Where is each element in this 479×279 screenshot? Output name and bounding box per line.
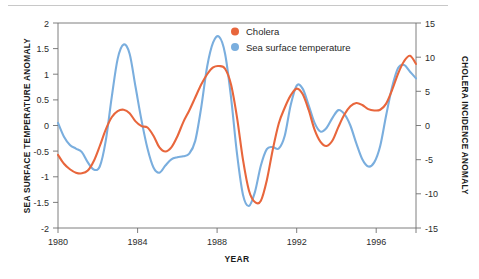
left-tick-label-neg1p5: -1.5 — [33, 198, 49, 208]
legend-dot-cholera — [231, 28, 239, 36]
left-tick-label-2: 2 — [44, 19, 49, 29]
right-tick-label-15: 15 — [425, 19, 435, 29]
right-axis-title: CHOLERA INCIDENCE ANOMALY — [460, 56, 469, 195]
chart-figure: 2 1.5 1 0.5 0 -0.5 -1 -1.5 -2 15 10 5 0 … — [0, 0, 479, 279]
left-tick-label-0p5: 0.5 — [36, 95, 49, 105]
right-tick-label-5: 5 — [425, 87, 430, 97]
left-tick-label-1p5: 1.5 — [36, 44, 49, 54]
right-tick-label-0: 0 — [425, 121, 430, 131]
legend-dot-sea-surface-temperature — [231, 43, 239, 51]
right-axis-ticks — [416, 23, 421, 228]
x-tick-label-1996: 1996 — [366, 237, 386, 247]
legend-label-cholera: Cholera — [246, 26, 280, 37]
left-axis-title: SEA SURFACE TEMPERATURE ANOMALY — [23, 38, 32, 214]
right-tick-label-10: 10 — [425, 53, 435, 63]
left-tick-label-neg2: -2 — [41, 224, 49, 234]
legend-label-sea-surface-temperature: Sea surface temperature — [246, 42, 351, 53]
right-tick-label-neg10: -10 — [425, 189, 438, 199]
left-tick-label-1: 1 — [44, 70, 49, 80]
left-tick-label-neg0p5: -0.5 — [33, 147, 49, 157]
x-axis-ticks — [58, 228, 416, 233]
x-tick-label-1992: 1992 — [287, 237, 307, 247]
left-tick-label-neg1: -1 — [41, 172, 49, 182]
left-axis-ticks — [53, 23, 58, 228]
right-tick-label-neg15: -15 — [425, 224, 438, 234]
left-tick-label-0: 0 — [44, 121, 49, 131]
chart-legend: Cholera Sea surface temperature — [231, 26, 351, 53]
line-chart: 2 1.5 1 0.5 0 -0.5 -1 -1.5 -2 15 10 5 0 … — [0, 0, 479, 279]
right-tick-label-neg5: -5 — [425, 155, 433, 165]
x-tick-label-1980: 1980 — [48, 237, 68, 247]
x-tick-label-1984: 1984 — [128, 237, 148, 247]
x-tick-label-1988: 1988 — [207, 237, 227, 247]
series-line-cholera — [58, 56, 416, 204]
x-axis-title: YEAR — [224, 254, 249, 264]
